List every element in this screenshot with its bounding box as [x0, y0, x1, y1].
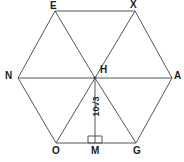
hexagon-figure: E X N A H O M G 10√3 — [0, 0, 184, 162]
radius-h-to-e — [55, 11, 95, 78]
vertex-label-n: N — [5, 71, 12, 81]
vertex-label-m: M — [91, 146, 99, 156]
radius-h-to-g — [95, 78, 136, 143]
vertex-label-g: G — [133, 146, 141, 156]
vertex-label-x: X — [130, 0, 137, 10]
vertex-label-h: H — [100, 65, 107, 75]
vertex-label-a: A — [174, 71, 181, 81]
radius-h-to-o — [56, 78, 95, 143]
center-point-h — [94, 77, 97, 80]
apothem-measure-label: 10√3 — [92, 89, 101, 125]
vertex-label-e: E — [50, 1, 57, 11]
vertex-label-o: O — [52, 146, 60, 156]
hexagon-diagram-svg — [0, 0, 184, 162]
